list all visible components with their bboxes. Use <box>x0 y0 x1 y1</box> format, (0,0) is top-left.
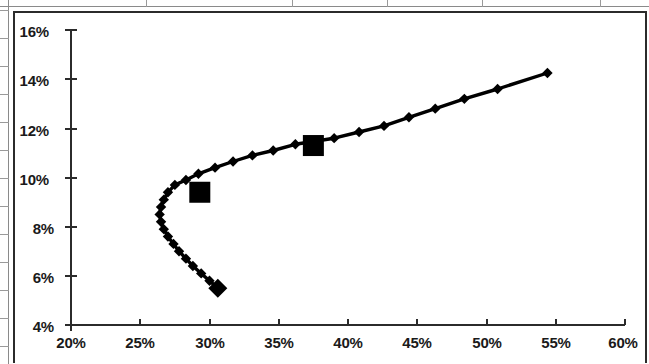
page-rule-tick-top <box>292 0 293 7</box>
page-rule-tick-top <box>482 0 483 7</box>
y-tick-label: 10% <box>3 171 49 188</box>
x-tick-label: 25% <box>112 334 168 351</box>
page-rule-tick-top <box>600 0 601 7</box>
x-tick-label: 30% <box>182 334 238 351</box>
page-rule-tick-left <box>0 94 9 95</box>
x-tick-label: 35% <box>251 334 307 351</box>
page-rule-tick-left <box>0 290 9 291</box>
x-tick-label: 55% <box>528 334 584 351</box>
page-rule-tick-left <box>0 10 9 11</box>
page-rule-top <box>0 6 649 7</box>
page-rule-tick-top <box>146 0 147 7</box>
page-rule-tick-left <box>0 206 9 207</box>
page-rule-tick-left <box>0 150 9 151</box>
x-tick-label: 60% <box>595 334 649 351</box>
page-rule-tick-top <box>387 0 388 7</box>
x-tick-label: 45% <box>389 334 445 351</box>
y-tick-label: 8% <box>8 220 54 237</box>
y-tick-label: 14% <box>3 72 49 89</box>
x-tick-label: 40% <box>320 334 376 351</box>
chart-frame-border-right <box>645 11 647 363</box>
y-tick-label: 16% <box>3 23 49 40</box>
y-tick-label: 12% <box>3 122 49 139</box>
page-rule-tick-left <box>0 262 9 263</box>
y-tick-label: 6% <box>8 269 54 286</box>
x-tick-label: 50% <box>459 334 515 351</box>
page-rule-tick-left <box>0 346 9 347</box>
page-rule-tick-left <box>0 66 9 67</box>
x-tick-label: 20% <box>43 334 99 351</box>
y-tick-label: 4% <box>8 318 54 335</box>
chart-frame <box>13 11 647 363</box>
